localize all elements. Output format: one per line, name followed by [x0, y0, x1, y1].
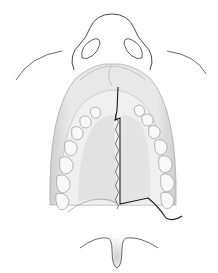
palate-illustration — [0, 0, 218, 273]
right-cheek-line — [167, 51, 206, 74]
uvula — [80, 238, 158, 268]
left-cheek-line — [16, 51, 62, 80]
nose — [72, 14, 152, 70]
illustration-canvas — [0, 0, 218, 273]
